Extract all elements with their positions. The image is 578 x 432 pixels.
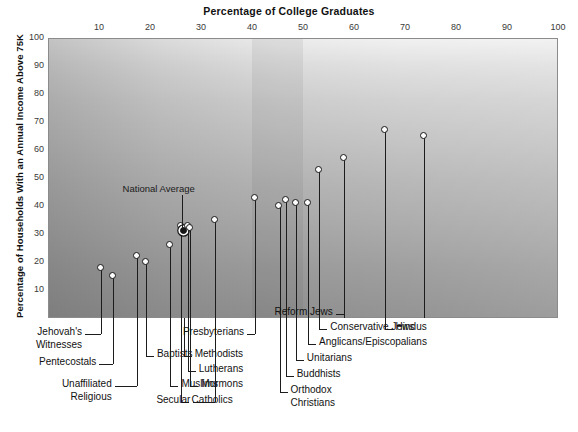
data-point-marker[interactable] bbox=[292, 199, 299, 206]
callout-line-1: Orthodox bbox=[291, 384, 335, 397]
y-tick-label: 90 bbox=[20, 60, 44, 70]
callout-label-mormons: Mormons bbox=[201, 378, 243, 391]
callout-line-2: Christians bbox=[291, 397, 335, 410]
callout-label-orthodox-christians: OrthodoxChristians bbox=[291, 384, 335, 409]
callout-line-1: Unaffiliated bbox=[62, 378, 112, 391]
callout-label-unaffiliated: UnaffiliatedReligious bbox=[62, 378, 112, 403]
callout-leader-buddhists bbox=[286, 318, 287, 376]
y-tick-label: 40 bbox=[20, 200, 44, 210]
callout-line-1: Buddhists bbox=[297, 368, 341, 381]
callout-elbow-jehovahs-witnesses bbox=[85, 334, 101, 335]
callout-elbow-unitarians bbox=[296, 360, 304, 361]
callout-line-1: Hindus bbox=[396, 321, 427, 334]
callout-line-2: Religious bbox=[62, 391, 112, 404]
callout-elbow-reform-jews bbox=[336, 314, 344, 315]
data-point-stem bbox=[344, 158, 345, 318]
callout-line-1: Mormons bbox=[201, 378, 243, 391]
callout-elbow-conservative-jews bbox=[319, 329, 327, 330]
data-point-marker[interactable] bbox=[340, 154, 347, 161]
y-tick-label: 100 bbox=[20, 32, 44, 42]
callout-leader-pentecostals bbox=[113, 318, 114, 364]
callout-leader-catholics bbox=[181, 318, 182, 402]
callout-leader-anglicans bbox=[308, 318, 309, 344]
callout-label-catholics: Catholics bbox=[192, 394, 233, 407]
x-tick-label: 30 bbox=[186, 22, 216, 32]
callout-elbow-muslims bbox=[170, 386, 178, 387]
callout-elbow-baptists bbox=[146, 356, 154, 357]
callout-line-1: Presbyterians bbox=[183, 326, 244, 339]
x-tick-label: 10 bbox=[84, 22, 114, 32]
data-point-stem bbox=[424, 136, 425, 318]
data-point-stem bbox=[319, 170, 320, 318]
x-tick-label: 60 bbox=[339, 22, 369, 32]
plot-area bbox=[48, 38, 558, 318]
callout-leader-hindus bbox=[385, 318, 386, 329]
chart-title: Percentage of College Graduates bbox=[0, 5, 578, 17]
callout-leader-jehovahs-witnesses bbox=[101, 318, 102, 334]
callout-line-2: Witnesses bbox=[36, 339, 82, 352]
data-point-marker[interactable] bbox=[251, 194, 258, 201]
data-point-stem bbox=[181, 226, 182, 318]
data-point-stem bbox=[385, 130, 386, 318]
callout-label-presbyterians: Presbyterians bbox=[183, 326, 244, 339]
callout-elbow-presbyterians bbox=[247, 334, 255, 335]
callout-leader-unitarians bbox=[296, 318, 297, 360]
callout-line-1: Anglicans/Episcopalians bbox=[319, 336, 427, 349]
callout-elbow-unaffiliated bbox=[115, 386, 137, 387]
callout-leader-presbyterians bbox=[255, 318, 256, 334]
data-point-stem bbox=[101, 268, 102, 318]
y-tick-label: 70 bbox=[20, 116, 44, 126]
x-tick-label: 50 bbox=[288, 22, 318, 32]
callout-label-secular: Secular bbox=[156, 394, 190, 407]
callout-elbow-orthodox-christians bbox=[280, 392, 288, 393]
data-point-stem bbox=[296, 203, 297, 318]
plot-background-horizontal-gradient bbox=[49, 39, 557, 317]
callout-label-lutherans: Lutherans bbox=[199, 363, 243, 376]
callout-label-jehovahs-witnesses: Jehovah'sWitnesses bbox=[36, 326, 82, 351]
x-tick-label: 90 bbox=[492, 22, 522, 32]
y-tick-label: 80 bbox=[20, 88, 44, 98]
data-point-marker[interactable] bbox=[97, 264, 104, 271]
x-tick-label: 20 bbox=[135, 22, 165, 32]
callout-line-1: Jehovah's bbox=[36, 326, 82, 339]
callout-elbow-buddhists bbox=[286, 376, 294, 377]
callout-leader-conservative-jews bbox=[319, 318, 320, 329]
callout-elbow-mormons bbox=[190, 386, 198, 387]
chart-figure: Percentage of College Graduates Percenta… bbox=[0, 0, 578, 432]
callout-label-buddhists: Buddhists bbox=[297, 368, 341, 381]
callout-elbow-secular bbox=[193, 402, 215, 403]
callout-line-1: Lutherans bbox=[199, 363, 243, 376]
callout-label-methodists: Methodists bbox=[195, 348, 243, 361]
data-point-stem bbox=[255, 198, 256, 318]
national-average-leader-line bbox=[182, 195, 183, 229]
data-point-marker[interactable] bbox=[315, 166, 322, 173]
data-point-marker[interactable] bbox=[142, 258, 149, 265]
callout-elbow-hindus bbox=[385, 329, 393, 330]
callout-line-1: Reform Jews bbox=[274, 306, 332, 319]
y-tick-label: 30 bbox=[20, 228, 44, 238]
data-point-marker[interactable] bbox=[133, 252, 140, 259]
data-point-marker[interactable] bbox=[381, 126, 388, 133]
national-average-annotation: National Average bbox=[123, 183, 195, 194]
callout-leader-muslims bbox=[170, 318, 171, 386]
data-point-stem bbox=[113, 276, 114, 318]
callout-elbow-pentecostals bbox=[99, 364, 113, 365]
callout-label-anglicans: Anglicans/Episcopalians bbox=[319, 336, 427, 349]
data-point-stem bbox=[308, 203, 309, 318]
callout-label-reform-jews: Reform Jews bbox=[274, 306, 332, 319]
x-tick-label: 80 bbox=[441, 22, 471, 32]
callout-label-hindus: Hindus bbox=[396, 321, 427, 334]
y-tick-label: 60 bbox=[20, 144, 44, 154]
callout-leader-baptists bbox=[146, 318, 147, 356]
callout-leader-orthodox-christians bbox=[280, 318, 281, 392]
data-point-stem bbox=[286, 200, 287, 318]
data-point-stem bbox=[215, 220, 216, 318]
callout-elbow-anglicans bbox=[308, 344, 316, 345]
x-tick-label: 70 bbox=[390, 22, 420, 32]
callout-line-1: Secular bbox=[156, 394, 190, 407]
data-point-stem bbox=[170, 245, 171, 318]
callout-leader-unaffiliated bbox=[137, 318, 138, 386]
data-point-marker[interactable] bbox=[282, 196, 289, 203]
y-tick-label: 50 bbox=[20, 172, 44, 182]
callout-elbow-lutherans bbox=[188, 371, 196, 372]
